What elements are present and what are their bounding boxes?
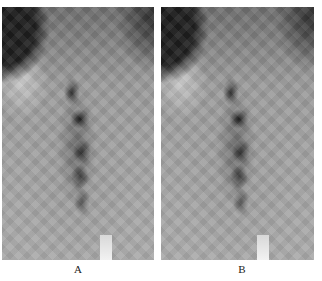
xray-texture-b bbox=[161, 7, 314, 260]
xray-texture-a bbox=[2, 7, 154, 260]
panel-label-b: B bbox=[232, 263, 252, 275]
tube-marker-a bbox=[100, 235, 112, 260]
radiograph-panel-b bbox=[161, 7, 314, 260]
tube-marker-b bbox=[257, 235, 269, 260]
radiograph-panel-a bbox=[2, 7, 154, 260]
panel-label-a: A bbox=[68, 263, 88, 275]
